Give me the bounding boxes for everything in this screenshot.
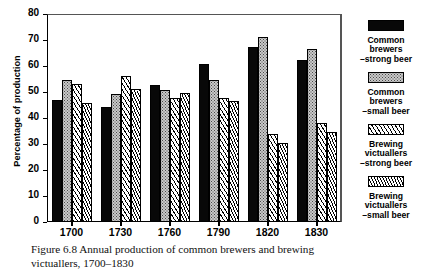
legend-label-3: Brewingvictuallers–strong beer [342, 140, 429, 168]
bar-1700-series-2 [62, 80, 72, 222]
legend-text-line: –strong beer [342, 159, 429, 168]
figure-caption: Figure 6.8 Annual production of common b… [31, 243, 411, 270]
bar-1760-series-3 [170, 98, 180, 222]
solid-black-swatch [368, 20, 404, 31]
y-tick-label: 0 [33, 215, 39, 226]
caption-line-1: Figure 6.8 Annual production of common b… [31, 243, 314, 255]
bar-1790-series-2 [209, 80, 219, 222]
bar-1820-series-2 [258, 37, 268, 222]
caption-line-2: victuallers, 1700–1830 [31, 257, 411, 271]
bar-1760-series-4 [180, 93, 190, 222]
bar-1830-series-3 [317, 123, 327, 222]
bar-group-1730 [101, 14, 141, 222]
figure-6-8: Percentage of production 010203040506070… [0, 0, 429, 275]
bar-group-1820 [248, 14, 288, 222]
x-tick-label-1830: 1830 [287, 226, 347, 238]
bar-1700-series-1 [52, 100, 62, 222]
legend-text-line: –small beer [342, 107, 429, 116]
bar-1700-series-4 [82, 103, 92, 222]
bar-1820-series-4 [278, 143, 288, 222]
bar-group-1700 [52, 14, 92, 222]
bar-1760-series-2 [160, 90, 170, 222]
chart-legend: Commonbrewers–strong beerCommonbrewers–s… [341, 14, 429, 222]
bar-1830-series-2 [307, 49, 317, 222]
hatch-dense-swatch [368, 176, 404, 187]
bar-1830-series-4 [327, 132, 337, 222]
y-tick-label: 20 [28, 163, 39, 174]
bar-1820-series-3 [268, 134, 278, 222]
legend-label-2: Commonbrewers–small beer [342, 88, 429, 116]
legend-label-4: Brewingvictuallers–small beer [342, 192, 429, 220]
bar-1830-series-1 [297, 60, 307, 223]
bar-1730-series-1 [101, 107, 111, 222]
bar-group-1760 [150, 14, 190, 222]
bar-1730-series-3 [121, 76, 131, 222]
bar-1760-series-1 [150, 85, 160, 222]
bar-1730-series-4 [131, 89, 141, 222]
legend-item-2[interactable]: Commonbrewers–small beer [342, 70, 429, 116]
y-tick-mark [43, 222, 47, 223]
dotted-grey-swatch [368, 72, 404, 83]
bar-1790-series-4 [229, 101, 239, 222]
bar-1700-series-3 [72, 84, 82, 222]
bar-group-1790 [199, 14, 239, 222]
y-tick-label: 80 [28, 7, 39, 18]
bar-1820-series-1 [248, 47, 258, 222]
legend-text-line: –strong beer [342, 55, 429, 64]
y-tick-label: 10 [28, 189, 39, 200]
bar-group-1830 [297, 14, 337, 222]
y-tick-label: 30 [28, 137, 39, 148]
legend-item-3[interactable]: Brewingvictuallers–strong beer [342, 122, 429, 168]
bar-series-container [47, 14, 341, 222]
legend-label-1: Commonbrewers–strong beer [342, 36, 429, 64]
legend-text-line: –small beer [342, 211, 429, 220]
y-axis-title: Percentage of production [12, 31, 22, 191]
bar-1790-series-3 [219, 98, 229, 222]
y-tick-label: 60 [28, 59, 39, 70]
y-tick-label: 50 [28, 85, 39, 96]
y-tick-label: 40 [28, 111, 39, 122]
bar-1790-series-1 [199, 64, 209, 222]
legend-item-4[interactable]: Brewingvictuallers–small beer [342, 174, 429, 220]
legend-item-1[interactable]: Commonbrewers–strong beer [342, 18, 429, 64]
y-tick-label: 70 [28, 33, 39, 44]
bar-1730-series-2 [111, 94, 121, 222]
hatch-wide-swatch [368, 124, 404, 135]
